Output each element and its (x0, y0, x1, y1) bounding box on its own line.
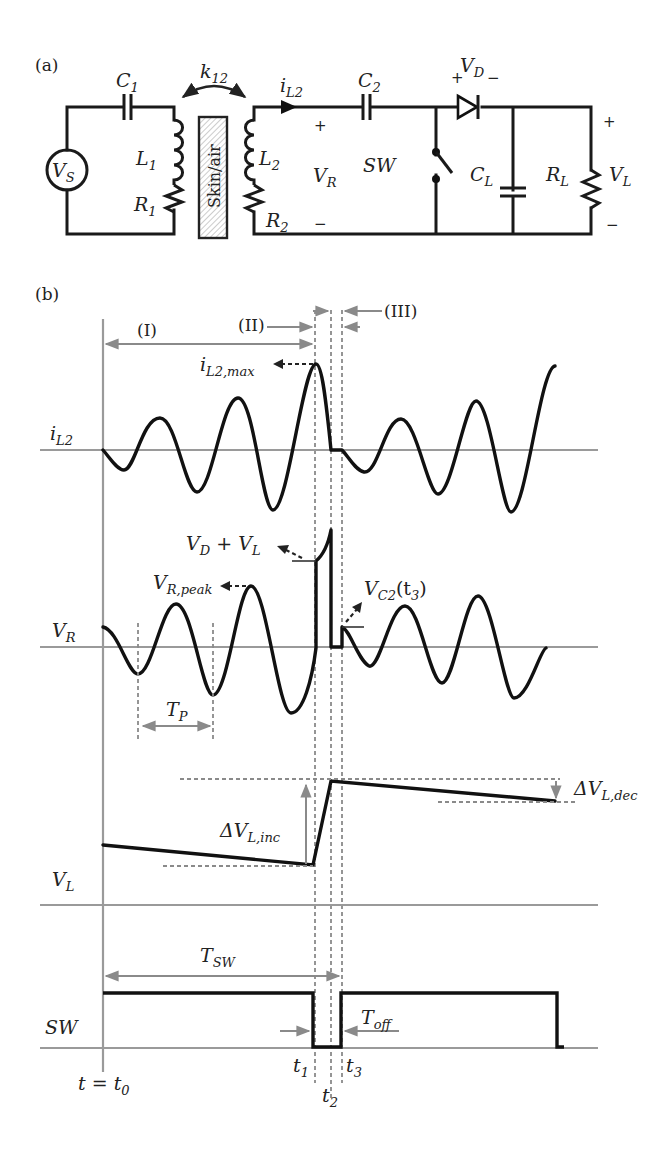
svg-text:+: + (314, 117, 327, 135)
svg-text:iL2: iL2 (280, 74, 303, 100)
svg-text:−: − (314, 215, 327, 233)
inductor-l1-icon (174, 120, 183, 185)
svg-text:VD: VD (460, 54, 485, 80)
resistor-r1-icon (166, 185, 182, 212)
svg-text:−: − (487, 69, 500, 87)
svg-text:C2: C2 (358, 69, 381, 95)
trace-vl: VL ΔVL,inc ΔVL,dec (40, 777, 638, 905)
diode-icon (458, 95, 478, 119)
svg-text:t2: t2 (322, 1084, 338, 1110)
svg-text:VR: VR (52, 619, 76, 645)
svg-text:VL: VL (609, 163, 631, 189)
svg-text:VR,peak: VR,peak (153, 571, 212, 597)
svg-text:TSW: TSW (200, 944, 237, 970)
svg-text:(III): (III) (384, 301, 417, 321)
interval-markers: (I) (II) (III) (106, 301, 417, 344)
svg-text:VC2(t3): VC2(t3) (364, 577, 427, 603)
svg-text:+: + (603, 113, 616, 131)
svg-text:VR: VR (313, 164, 337, 190)
trace-vr: VR VD + VL VR,peak VC2(t3) TP (40, 530, 598, 741)
primary-loop: C1 VS L1 R1 (47, 69, 183, 234)
svg-text:TP: TP (166, 698, 188, 724)
capacitor-c2-icon (363, 94, 370, 120)
svg-text:iL2: iL2 (50, 422, 73, 448)
capacitor-cl-icon (500, 188, 526, 196)
svg-text:ΔVL,dec: ΔVL,dec (573, 777, 638, 803)
figure-canvas: (a) C1 VS L1 R1 k12 (0, 0, 661, 1155)
svg-text:R1: R1 (133, 193, 157, 219)
svg-text:VD + VL: VD + VL (186, 532, 261, 558)
svg-text:Skin/air: Skin/air (205, 144, 224, 208)
panel-b-label: (b) (35, 284, 59, 304)
trace-sw: SW TSW Toff (40, 944, 598, 1048)
svg-text:−: − (606, 216, 619, 234)
svg-text:Toff: Toff (361, 1006, 394, 1032)
svg-text:SW: SW (45, 1016, 79, 1038)
panel-a-label: (a) (35, 55, 58, 75)
coupling-k12: k12 (183, 60, 245, 97)
svg-text:RL: RL (545, 163, 569, 189)
svg-text:VL: VL (52, 868, 74, 894)
svg-text:k12: k12 (200, 60, 228, 86)
svg-text:ΔVL,inc: ΔVL,inc (219, 819, 281, 845)
svg-text:(I): (I) (137, 320, 157, 340)
svg-text:L2: L2 (258, 147, 280, 173)
capacitor-c1-icon (124, 94, 131, 120)
svg-text:t3: t3 (346, 1054, 362, 1080)
svg-text:t = t0: t = t0 (78, 1072, 130, 1098)
svg-text:L1: L1 (135, 147, 157, 173)
svg-text:C1: C1 (116, 69, 139, 95)
source-label: VS (52, 159, 75, 185)
circuit-panel: (a) C1 VS L1 R1 k12 (35, 54, 631, 238)
svg-text:R2: R2 (265, 209, 289, 235)
svg-text:SW: SW (363, 154, 397, 176)
time-markers: t = t0 t1 t2 t3 (78, 1054, 362, 1110)
current-arrow-icon (281, 100, 297, 114)
svg-text:CL: CL (470, 163, 493, 189)
timing-panel: (b) (I) (II) (III) iL2 iL2,max (35, 284, 638, 1110)
resistor-r2-icon (246, 185, 262, 212)
secondary-loop: L2 R2 iL2 + VR − C2 SW (245, 54, 631, 235)
switch-icon (432, 148, 452, 183)
svg-text:(II): (II) (238, 315, 265, 335)
svg-text:iL2,max: iL2,max (200, 353, 255, 379)
inductor-l2-icon (245, 120, 254, 185)
trace-il2: iL2 iL2,max (40, 353, 598, 512)
svg-text:t1: t1 (293, 1054, 309, 1080)
resistor-rl-icon (583, 170, 599, 208)
skin-air-barrier: Skin/air (199, 117, 227, 238)
